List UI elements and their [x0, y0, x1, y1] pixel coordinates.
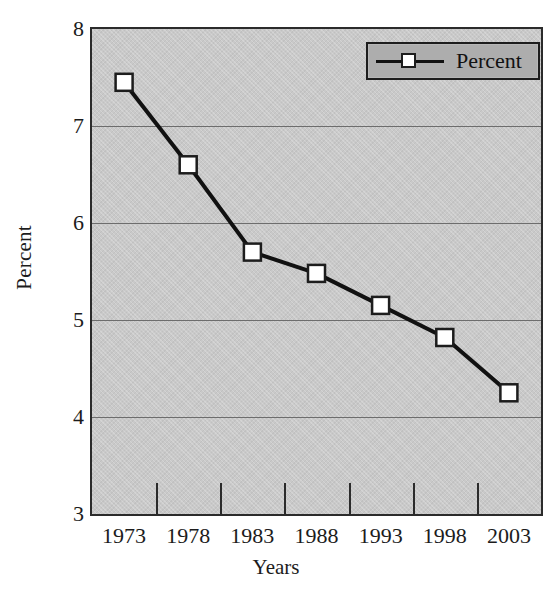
- x-axis-tick-labels: 1973197819831988199319982003: [90, 521, 543, 553]
- y-tick-label: 3: [58, 503, 84, 525]
- legend-square-marker-icon: [401, 53, 416, 68]
- data-point-marker: [436, 329, 453, 346]
- legend-inner: Percent: [368, 44, 538, 78]
- data-point-marker: [372, 297, 389, 314]
- y-tick-label: 5: [58, 309, 84, 331]
- legend-symbol: [376, 51, 444, 71]
- data-point-marker: [244, 244, 261, 261]
- y-axis-title: Percent: [12, 198, 37, 318]
- legend[interactable]: Percent: [366, 42, 540, 80]
- data-point-marker: [500, 384, 517, 401]
- plot-area: Percent: [90, 27, 543, 516]
- data-point-marker: [116, 74, 133, 91]
- y-tick-label: 4: [58, 406, 84, 428]
- data-point-marker: [308, 265, 325, 282]
- y-tick-label: 8: [58, 18, 84, 40]
- y-tick-label: 7: [58, 115, 84, 137]
- line-chart: Percent 876543 Percent 19731978198319881…: [0, 0, 552, 591]
- legend-label-percent: Percent: [456, 48, 522, 74]
- y-tick-label: 6: [58, 212, 84, 234]
- series-percent: [92, 29, 541, 514]
- x-axis-title: Years: [0, 555, 552, 580]
- y-axis-tick-labels: 876543: [56, 0, 84, 591]
- data-point-marker: [180, 156, 197, 173]
- x-tick-label: 2003: [469, 521, 549, 551]
